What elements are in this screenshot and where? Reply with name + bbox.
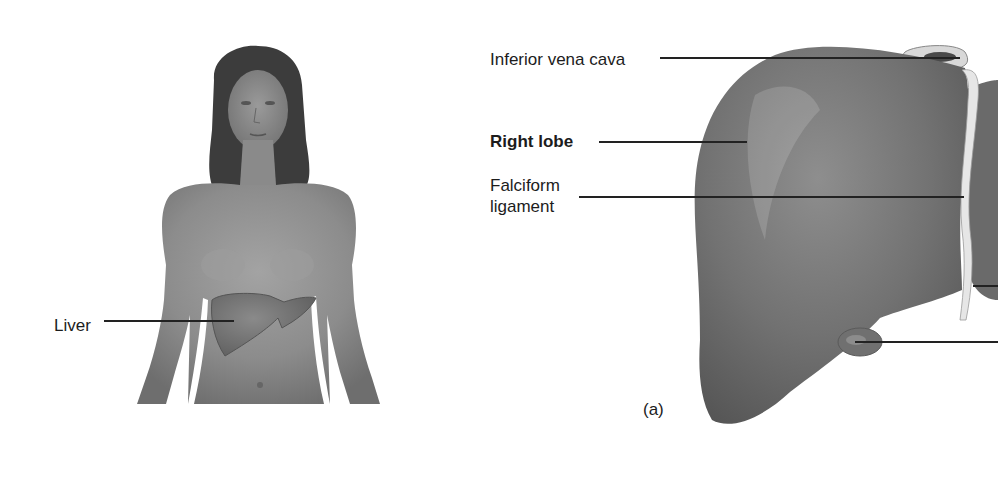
leader-line-liver xyxy=(104,320,234,322)
face-shape xyxy=(228,70,288,150)
leader-line-inferior-vena-cava xyxy=(660,57,960,59)
right-lobe-shape xyxy=(695,47,969,424)
female-torso-illustration xyxy=(0,0,998,478)
panel-label-a: (a) xyxy=(643,400,664,420)
label-inferior-vena-cava: Inferior vena cava xyxy=(490,50,625,70)
label-falciform-line1: Falciform xyxy=(490,176,560,196)
liver-anatomy-figure: Liver Inferior vena cava Right lobe Falc… xyxy=(0,0,998,478)
leader-line-cropped-1 xyxy=(973,285,998,287)
leader-line-falciform-ligament xyxy=(579,196,964,198)
label-right-lobe: Right lobe xyxy=(490,132,573,152)
leader-line-right-lobe xyxy=(599,141,747,143)
label-falciform-line2: ligament xyxy=(490,197,554,217)
leader-line-gallbladder xyxy=(855,341,998,343)
label-liver: Liver xyxy=(54,316,91,336)
